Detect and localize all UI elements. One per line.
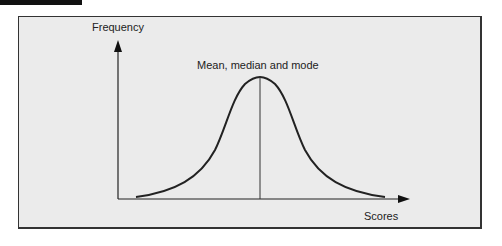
central-tendency-annotation: Mean, median and mode <box>197 59 319 71</box>
x-axis-arrow-icon <box>398 195 410 203</box>
y-axis-label: Frequency <box>92 21 144 33</box>
y-axis <box>114 40 122 199</box>
x-axis <box>118 195 410 203</box>
x-axis-label: Scores <box>364 210 398 222</box>
y-axis-arrow-icon <box>114 40 122 52</box>
bell-curve-diagram <box>0 0 502 246</box>
